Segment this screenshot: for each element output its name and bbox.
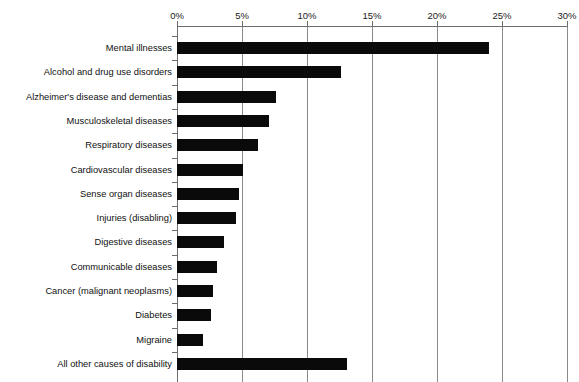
y-axis-tick — [172, 206, 177, 207]
category-label: Alzheimer's disease and dementias — [26, 92, 172, 103]
y-axis-tick — [172, 279, 177, 280]
x-axis-tick — [372, 21, 373, 27]
category-label: Cardiovascular diseases — [71, 165, 172, 176]
bar — [177, 261, 217, 273]
y-axis-tick — [172, 352, 177, 353]
category-label: Musculoskeletal diseases — [67, 116, 172, 127]
bar — [177, 164, 243, 176]
y-axis-tick — [172, 158, 177, 159]
x-axis-tick — [307, 21, 308, 27]
bar — [177, 91, 276, 103]
category-label: Digestive diseases — [94, 237, 172, 248]
gridline — [242, 26, 243, 382]
x-axis-tick-label: 5% — [222, 10, 262, 21]
y-axis-tick — [172, 133, 177, 134]
x-axis-tick — [437, 21, 438, 27]
gridline — [307, 26, 308, 382]
category-label: Mental illnesses — [106, 43, 172, 54]
bar — [177, 236, 224, 248]
category-label: Cancer (malignant neoplasms) — [45, 286, 172, 297]
bar — [177, 115, 269, 127]
x-axis-tick-label: 0% — [157, 10, 197, 21]
bar — [177, 139, 258, 151]
bar — [177, 334, 203, 346]
x-axis-tick — [242, 21, 243, 27]
bar — [177, 285, 213, 297]
category-label: Injuries (disabling) — [97, 213, 172, 224]
x-axis-tick — [177, 21, 178, 27]
x-axis-tick-label: 10% — [287, 10, 327, 21]
gridline — [567, 26, 568, 382]
category-label: Sense organ diseases — [80, 189, 172, 200]
bar — [177, 212, 236, 224]
bar — [177, 42, 489, 54]
y-axis-tick — [172, 230, 177, 231]
y-axis-tick — [172, 328, 177, 329]
bar — [177, 358, 347, 370]
category-label: Respiratory diseases — [85, 140, 172, 151]
bar — [177, 66, 341, 78]
x-axis-tick — [502, 21, 503, 27]
y-axis-tick — [172, 255, 177, 256]
y-axis-tick — [172, 85, 177, 86]
category-label: Migraine — [136, 335, 172, 346]
y-axis-tick — [172, 182, 177, 183]
gridline — [372, 26, 373, 382]
y-axis-tick — [172, 303, 177, 304]
y-axis-tick — [172, 109, 177, 110]
category-label: Communicable diseases — [71, 262, 172, 273]
x-axis-tick — [567, 21, 568, 27]
category-label: All other causes of disability — [57, 359, 172, 370]
y-axis-tick — [172, 60, 177, 61]
axis-y-line — [177, 26, 178, 382]
category-label: Diabetes — [135, 310, 172, 321]
gridline — [502, 26, 503, 382]
gridline — [437, 26, 438, 382]
x-axis-tick-label: 20% — [417, 10, 457, 21]
x-axis-tick-label: 25% — [482, 10, 522, 21]
bar — [177, 188, 239, 200]
category-label: Alcohol and drug use disorders — [44, 67, 172, 78]
x-axis-tick-label: 30% — [547, 10, 579, 21]
x-axis-tick-label: 15% — [352, 10, 392, 21]
bar — [177, 309, 211, 321]
y-axis-tick — [172, 36, 177, 37]
